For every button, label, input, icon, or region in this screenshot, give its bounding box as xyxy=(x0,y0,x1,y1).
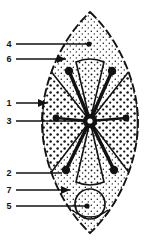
hub-inner-core xyxy=(87,118,92,123)
spoke-knob-upper-right xyxy=(108,67,116,75)
label-7: 7 xyxy=(6,185,11,195)
label-number-group: 4 6 1 3 2 7 5 xyxy=(6,39,11,211)
leader-tip-dot-4 xyxy=(86,41,91,46)
label-1: 1 xyxy=(6,98,11,108)
leader-tip-dot-5 xyxy=(84,203,89,208)
label-2: 2 xyxy=(6,168,11,178)
spoke-knob-lower-left xyxy=(62,166,70,174)
label-3: 3 xyxy=(6,116,11,126)
central-hub xyxy=(83,114,97,128)
label-4: 4 xyxy=(6,39,11,49)
spoke-knob-lower-right xyxy=(110,166,118,174)
figure-container: 4 6 1 3 2 7 5 xyxy=(0,0,152,244)
label-6: 6 xyxy=(6,54,11,64)
label-5: 5 xyxy=(6,201,11,211)
spoke-knob-upper-left xyxy=(65,67,73,75)
cross-section-diagram: 4 6 1 3 2 7 5 xyxy=(0,0,152,244)
spoke-knob-right xyxy=(123,115,130,122)
